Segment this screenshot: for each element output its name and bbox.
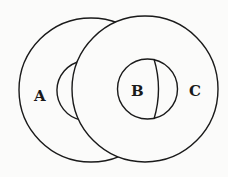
label-b: B: [131, 82, 144, 100]
label-c: C: [189, 82, 201, 100]
venn-diagram: A B C: [0, 0, 228, 177]
label-a: A: [33, 87, 46, 105]
